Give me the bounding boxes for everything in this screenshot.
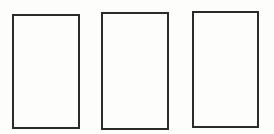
- rectangle-left: [12, 14, 80, 129]
- rectangle-middle: [101, 12, 169, 130]
- diagram-canvas: [0, 0, 274, 134]
- rectangle-right: [192, 11, 259, 128]
